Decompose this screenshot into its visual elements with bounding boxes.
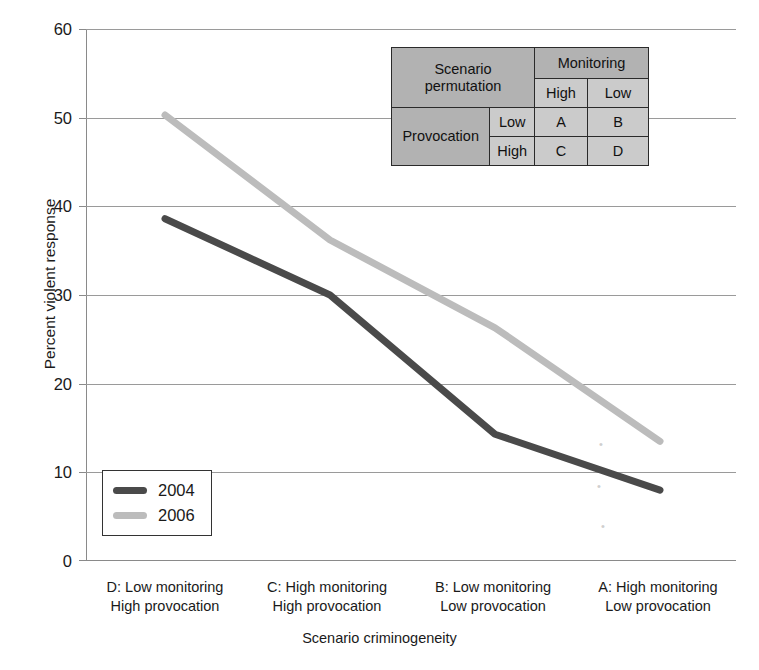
x-tick-label-c: C: High monitoring High provocation (232, 578, 422, 616)
scan-artifact-lower: • (597, 480, 601, 492)
design-table-row-group-header: Provocation (392, 108, 490, 166)
y-tick-label-10: 10 (26, 464, 72, 481)
design-table-col-header-low: Low (588, 79, 649, 108)
legend-item-2004: 2004 (113, 478, 195, 503)
x-tick-label-b-line2: Low provocation (398, 597, 588, 616)
y-tick-label-60: 60 (26, 21, 72, 38)
x-tick-label-b: B: Low monitoring Low provocation (398, 578, 588, 616)
line-series-2004 (165, 219, 660, 490)
design-table-corner-line1: Scenario (434, 61, 491, 77)
y-tickmark-30 (79, 295, 86, 296)
chart-figure: Percent violent response 60 50 40 30 20 … (0, 0, 759, 670)
y-tick-label-30: 30 (26, 287, 72, 304)
design-table-row-header-low: Low (490, 108, 535, 137)
y-tick-label-20: 20 (26, 376, 72, 393)
y-tickmark-40 (79, 206, 86, 207)
y-tickmark-10 (79, 472, 86, 473)
x-tick-label-a-line1: A: High monitoring (563, 578, 753, 597)
design-matrix-table: Scenario permutation Monitoring High Low… (391, 47, 649, 166)
y-tick-label-40: 40 (26, 198, 72, 215)
legend-label-2006: 2006 (158, 506, 195, 525)
chart-legend: 2004 2006 (102, 470, 212, 536)
design-table-cell-d: D (588, 137, 649, 166)
x-tick-label-b-line1: B: Low monitoring (398, 578, 588, 597)
y-tick-label-0: 0 (26, 553, 72, 570)
y-tickmark-0 (79, 560, 86, 561)
x-tick-label-a: A: High monitoring Low provocation (563, 578, 753, 616)
design-table-row-header: Scenario permutation Monitoring (392, 48, 649, 79)
legend-swatch-2006 (113, 512, 147, 519)
design-table-row-header-high: High (490, 137, 535, 166)
y-tickmark-60 (79, 29, 86, 30)
design-table-cell-c: C (535, 137, 588, 166)
design-table-column-group-header: Monitoring (535, 48, 649, 79)
design-table-cell-a: A (535, 108, 588, 137)
x-tick-label-c-line1: C: High monitoring (232, 578, 422, 597)
y-tickmark-20 (79, 384, 86, 385)
design-table-corner-title: Scenario permutation (392, 48, 535, 108)
y-tickmark-50 (79, 118, 86, 119)
legend-item-2006: 2006 (113, 503, 195, 528)
legend-swatch-2004 (113, 487, 147, 494)
design-table-col-header-high: High (535, 79, 588, 108)
x-tick-label-a-line2: Low provocation (563, 597, 753, 616)
x-axis-title: Scenario criminogeneity (0, 630, 759, 646)
design-table-cell-b: B (588, 108, 649, 137)
scan-artifact-upper: • (599, 438, 603, 450)
design-table-corner-line2: permutation (425, 78, 502, 94)
x-tick-label-c-line2: High provocation (232, 597, 422, 616)
design-table-row-low: Provocation Low A B (392, 108, 649, 137)
y-tick-label-50: 50 (26, 110, 72, 127)
legend-label-2004: 2004 (158, 481, 195, 500)
scan-artifact-bottom: • (601, 520, 605, 532)
